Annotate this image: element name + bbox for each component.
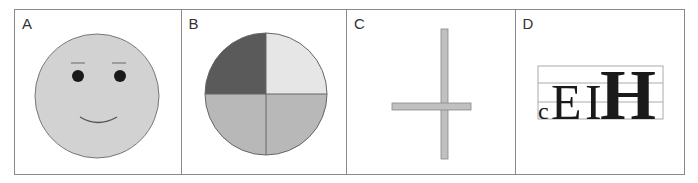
letters-grid: c E I H <box>516 10 685 176</box>
letter-e: E <box>551 74 582 130</box>
panel-b: B <box>182 10 348 174</box>
panel-a: A <box>15 10 182 174</box>
panel-c: C <box>347 10 516 174</box>
smiley-face-icon <box>15 10 182 176</box>
letter-h: H <box>600 55 656 135</box>
letter-c: c <box>538 98 549 124</box>
panel-d: D c E I H <box>516 10 685 174</box>
figure-frame: A B C <box>14 9 685 175</box>
quartered-circle-icon <box>182 10 348 176</box>
cross-shape-icon <box>347 10 516 176</box>
